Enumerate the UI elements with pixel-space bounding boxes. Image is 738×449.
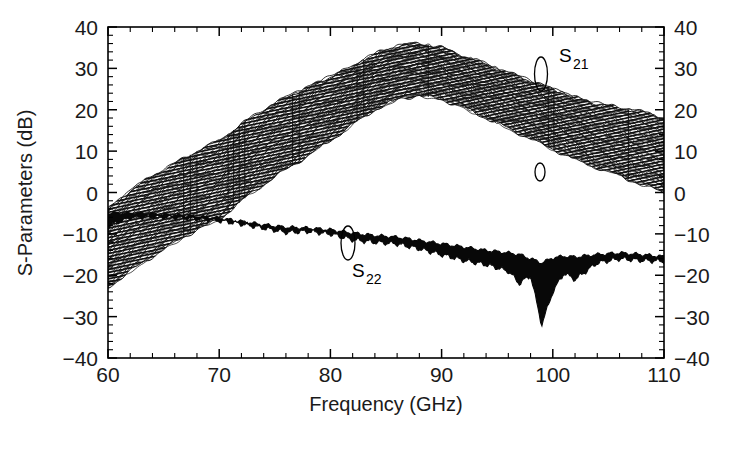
- chart-canvas: S 21 S 22 60708090100110 403020100−10−20…: [0, 0, 738, 449]
- y-tick-label-right: −30: [674, 306, 710, 329]
- y-axis-title: S-Parameters (dB): [14, 110, 36, 277]
- y-tick-label-left: 40: [75, 16, 98, 39]
- y-tick-label-right: −40: [674, 347, 710, 370]
- s-parameters-chart-figure: S 21 S 22 60708090100110 403020100−10−20…: [0, 0, 738, 449]
- y-tick-label-right: 20: [674, 99, 697, 122]
- y-tick-label-left: 20: [75, 99, 98, 122]
- x-tick-label: 70: [208, 363, 231, 386]
- x-tick-label: 60: [96, 363, 119, 386]
- s22-label-subscript: 22: [366, 271, 382, 287]
- y-tick-label-left: 0: [86, 182, 98, 205]
- y-tick-label-right: −10: [674, 223, 710, 246]
- x-tick-label: 100: [535, 363, 570, 386]
- y-tick-label-left: −30: [62, 306, 98, 329]
- y-tick-label-right: 0: [674, 182, 686, 205]
- y-tick-label-right: 10: [674, 140, 697, 163]
- s22-label: S: [352, 260, 365, 281]
- y-tick-label-right: 40: [674, 16, 697, 39]
- y-tick-label-left: −10: [62, 223, 98, 246]
- y-tick-label-right: 30: [674, 57, 697, 80]
- y-tick-label-right: −20: [674, 264, 710, 287]
- s21-label-subscript: 21: [573, 56, 589, 72]
- s21-label: S: [559, 45, 572, 66]
- y-tick-label-left: −40: [62, 347, 98, 370]
- x-tick-label: 80: [319, 363, 342, 386]
- x-axis-title: Frequency (GHz): [309, 393, 462, 415]
- y-tick-label-left: 10: [75, 140, 98, 163]
- y-tick-label-left: −20: [62, 264, 98, 287]
- x-tick-label: 90: [430, 363, 453, 386]
- y-tick-label-left: 30: [75, 57, 98, 80]
